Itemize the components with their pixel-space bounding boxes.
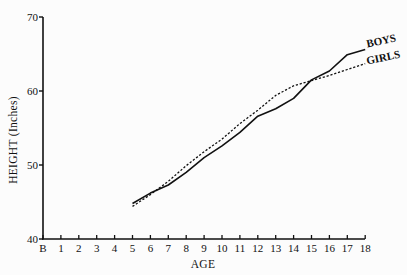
x-tick-label: 15 bbox=[306, 242, 318, 254]
series-label-girls: GIRLS bbox=[365, 48, 401, 67]
series-boys-line bbox=[133, 50, 366, 204]
y-tick-label: 70 bbox=[27, 11, 39, 23]
x-tick-label: 5 bbox=[130, 242, 136, 254]
series-labels: BOYSGIRLS bbox=[365, 32, 401, 67]
x-tick-label: 8 bbox=[183, 242, 189, 254]
x-tick-label: 13 bbox=[270, 242, 282, 254]
y-tick-label: 40 bbox=[27, 233, 39, 245]
y-ticks: 40506070 bbox=[27, 11, 43, 245]
x-tick-label: 6 bbox=[148, 242, 154, 254]
x-tick-label: 3 bbox=[94, 242, 100, 254]
x-tick-label: B bbox=[39, 242, 46, 254]
series-lines bbox=[133, 50, 366, 207]
x-tick-label: 2 bbox=[76, 242, 82, 254]
y-tick-label: 60 bbox=[27, 85, 39, 97]
x-tick-label: 17 bbox=[342, 242, 354, 254]
x-tick-label: 18 bbox=[360, 242, 372, 254]
x-tick-label: 1 bbox=[58, 242, 64, 254]
axes bbox=[42, 17, 365, 240]
x-tick-label: 10 bbox=[217, 242, 229, 254]
x-axis-title: AGE bbox=[191, 258, 216, 270]
x-tick-label: 11 bbox=[235, 242, 246, 254]
x-ticks: B123456789101112131415161718 bbox=[39, 235, 371, 254]
y-axis-title: HEIGHT (Inches) bbox=[7, 96, 20, 184]
x-tick-label: 4 bbox=[112, 242, 118, 254]
x-tick-label: 16 bbox=[324, 242, 336, 254]
x-tick-label: 9 bbox=[201, 242, 207, 254]
x-tick-label: 14 bbox=[288, 242, 300, 254]
y-tick-label: 50 bbox=[27, 159, 39, 171]
height-by-age-chart: 40506070 B123456789101112131415161718 AG… bbox=[0, 0, 407, 275]
series-label-boys: BOYS bbox=[365, 32, 397, 50]
x-tick-label: 7 bbox=[166, 242, 172, 254]
x-tick-label: 12 bbox=[252, 242, 263, 254]
